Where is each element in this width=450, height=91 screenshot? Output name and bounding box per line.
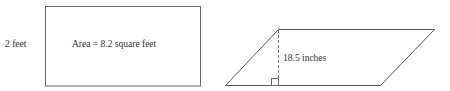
parallelogram-height-label: 18.5 inches [283,54,326,64]
rectangle-area-label: Area = 8.2 square feet [72,40,156,50]
rectangle-side-label: 2 feet [5,40,26,50]
diagram-canvas [0,0,450,91]
right-angle-marker [272,79,279,86]
parallelogram-shape [226,30,435,86]
